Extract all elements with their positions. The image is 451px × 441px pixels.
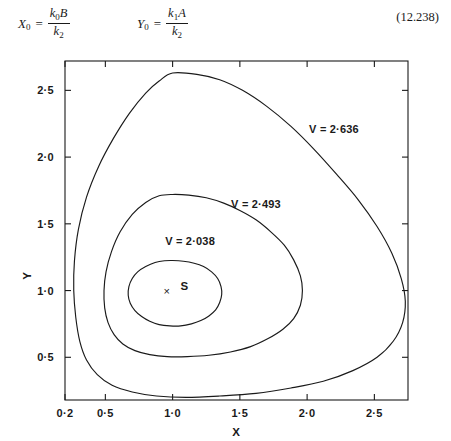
equation-y0-fraction: k1Ak2 [166, 7, 188, 40]
contour-curve-0 [74, 73, 406, 398]
equation-y0-numerator: k1A [166, 7, 188, 24]
equation-y0-denominator: k2 [166, 24, 188, 40]
y-tick-label: 1·5 [37, 218, 54, 230]
x-tick-label: 0·2 [57, 407, 74, 419]
equation-x0-symbol: X [18, 16, 26, 31]
equation-y0-den-ksub: 2 [177, 30, 182, 40]
y-axis-title: Y [21, 272, 33, 280]
equation-y0-equals: = [149, 16, 166, 31]
x-tick-label: 1·5 [231, 407, 248, 419]
y-tick-label: 0·5 [37, 351, 54, 363]
x-tick-label: 2·5 [366, 407, 383, 419]
contour-curves [74, 73, 406, 398]
y-tick-label: 1·0 [37, 285, 54, 297]
y-tick-label: 2·0 [37, 151, 54, 163]
contour-plot-figure: 0·20·51·01·52·02·50·51·01·52·02·5 V = 2·… [0, 46, 451, 441]
steady-state-marker-glyph: × [163, 285, 169, 297]
contour-label-2: V = 2·038 [165, 235, 215, 247]
x-tick-label: 1·0 [164, 407, 181, 419]
contour-curve-2 [128, 260, 222, 326]
equation-y0-num-var: A [178, 6, 186, 20]
y-tick-label: 2·5 [37, 84, 54, 96]
contour-labels: V = 2·636V = 2·493V = 2·038 [165, 123, 359, 246]
equation-x0-num-var: B [60, 6, 68, 20]
axis-ticks [65, 61, 408, 400]
equation-y0: Y0=k1Ak2 [137, 8, 188, 41]
equation-line: X0=k0Bk2 Y0=k1Ak2 (12.238) [0, 0, 451, 46]
equation-x0-equals: = [30, 16, 47, 31]
contour-plot-svg: 0·20·51·01·52·02·50·51·01·52·02·5 V = 2·… [0, 46, 451, 441]
steady-state-marker-label: S [181, 280, 189, 292]
x-axis-title: X [232, 426, 240, 438]
equation-x0-denominator: k2 [48, 24, 70, 40]
x-tick-label: 0·5 [97, 407, 114, 419]
contour-label-0: V = 2·636 [309, 123, 359, 135]
axes-frame [65, 61, 408, 400]
equation-x0-numerator: k0B [48, 7, 70, 24]
contour-label-1: V = 2·493 [231, 198, 281, 210]
axes-box [65, 61, 408, 400]
plot-annotations: ×S [163, 280, 188, 297]
x-tick-label: 2·0 [299, 407, 316, 419]
equation-x0: X0=k0Bk2 [18, 8, 70, 41]
equation-x0-den-ksub: 2 [59, 30, 64, 40]
equation-x0-fraction: k0Bk2 [48, 7, 70, 40]
equation-number: (12.238) [396, 10, 439, 25]
